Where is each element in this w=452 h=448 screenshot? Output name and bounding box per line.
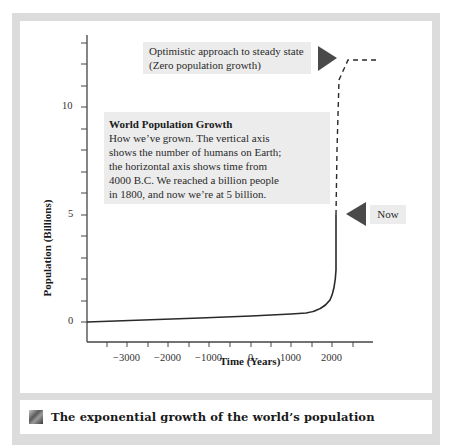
info-line: shows the number of humans on Earth;	[109, 145, 330, 159]
zpg-line-2: (Zero population growth)	[149, 58, 311, 72]
projection-curve	[336, 60, 380, 215]
zpg-line-1: Optimistic approach to steady state	[149, 44, 311, 58]
y-tick-label: 10	[62, 100, 73, 111]
y-axis-label: Population (Billions)	[41, 193, 53, 303]
now-annotation: Now	[370, 205, 406, 224]
info-line: in 1800, and now we’re at 5 billion.	[109, 187, 330, 201]
x-ticks	[107, 342, 353, 347]
info-line: How we’ve grown. The vertical axis	[109, 131, 330, 145]
x-tick-label: 2000	[321, 352, 342, 363]
zpg-annotation: Optimistic approach to steady state (Zer…	[143, 42, 311, 74]
x-axis-label: Time (Years)	[190, 355, 310, 367]
y-tick-label: 5	[68, 208, 73, 219]
zpg-arrow-icon	[318, 46, 337, 71]
y-tick-label: 0	[68, 315, 73, 326]
info-title: World Population Growth	[109, 117, 330, 131]
now-arrow-icon	[346, 202, 366, 226]
y-ticks	[81, 43, 87, 322]
x-tick-label: −2000	[154, 352, 181, 363]
population-curve	[87, 215, 336, 322]
info-line: the horizontal axis shows time from	[109, 159, 330, 173]
x-tick-label: −3000	[113, 352, 140, 363]
info-annotation: World Population Growth How we’ve grown.…	[104, 112, 330, 204]
info-line: 4000 B.C. We reached a billion people	[109, 173, 330, 187]
